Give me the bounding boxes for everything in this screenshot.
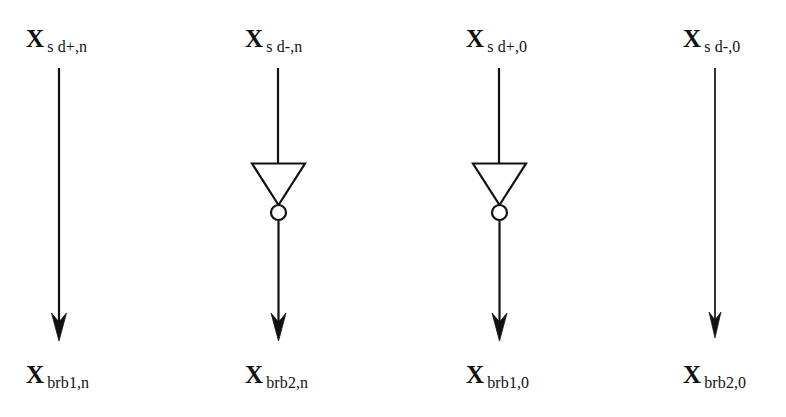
top-label-col-1-sub: s d+,n: [47, 38, 87, 55]
top-label-col-3-sub: s d+,0: [487, 38, 527, 55]
bottom-label-col-3-base: X: [466, 361, 484, 388]
bottom-label-col-4: Xbrb2,0: [683, 362, 743, 387]
bottom-label-col-3: Xbrb1,0: [466, 362, 526, 387]
inverter-buffer-diagram: Xs d+,n Xs d-,n Xs d+,0 Xs d-,0 Xbrb1,n …: [0, 0, 786, 417]
bottom-label-col-2-sub: brb2,n: [266, 374, 308, 391]
top-label-col-1-base: X: [26, 25, 44, 52]
bottom-label-col-3-sub: brb1,0: [487, 374, 529, 391]
top-label-col-3: Xs d+,0: [466, 26, 524, 51]
top-label-col-2-base: X: [245, 25, 263, 52]
top-label-col-2-sub: s d-,n: [266, 38, 302, 55]
bottom-label-col-1-base: X: [26, 361, 44, 388]
inverter-triangle-col-2: [252, 164, 305, 206]
bottom-label-col-1-sub: brb1,n: [47, 374, 89, 391]
inverter-bubble-col-2: [271, 205, 286, 220]
top-label-col-1: Xs d+,n: [26, 26, 84, 51]
inverter-bubble-col-3: [492, 205, 507, 220]
signal-path-col-2: [252, 68, 305, 341]
diagram-canvas: [0, 0, 786, 417]
top-label-col-4-base: X: [683, 25, 701, 52]
bottom-label-col-2-base: X: [245, 361, 263, 388]
bottom-label-col-2: Xbrb2,n: [245, 362, 305, 387]
bottom-label-col-4-sub: brb2,0: [704, 374, 746, 391]
top-label-col-4: Xs d-,0: [683, 26, 737, 51]
top-label-col-2: Xs d-,n: [245, 26, 299, 51]
bottom-label-col-4-base: X: [683, 361, 701, 388]
top-label-col-4-sub: s d-,0: [704, 38, 740, 55]
bottom-label-col-1: Xbrb1,n: [26, 362, 86, 387]
signal-path-col-1: [52, 68, 67, 341]
inverter-triangle-col-3: [473, 164, 526, 206]
signal-path-col-3: [473, 68, 526, 341]
top-label-col-3-base: X: [466, 25, 484, 52]
signal-path-col-4: [709, 68, 721, 338]
